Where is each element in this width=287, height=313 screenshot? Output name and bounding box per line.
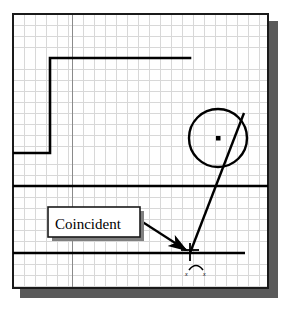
- constraint-mark-left: x: [184, 271, 188, 277]
- callout-label: Coincident: [55, 216, 122, 232]
- sketch-canvas-svg: x x Coincident: [0, 0, 287, 313]
- circle-center-point[interactable]: [216, 136, 221, 141]
- constraint-mark-right: x: [202, 271, 206, 277]
- cad-sketch-figure: x x Coincident: [0, 0, 287, 313]
